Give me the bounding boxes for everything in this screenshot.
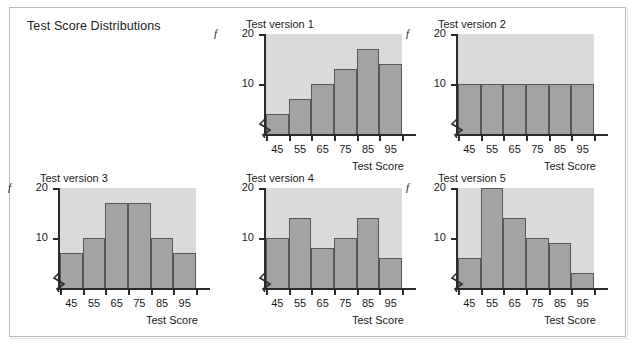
bar-85 — [549, 243, 572, 288]
x-tick-end-5 — [594, 290, 596, 295]
y-tick-20 — [451, 34, 457, 36]
x-tick-45 — [458, 290, 460, 295]
x-tick-95 — [173, 290, 175, 295]
x-axis-title-1: Test Score — [352, 160, 404, 172]
figure-root: Test Score Distributions Test version 11… — [0, 0, 634, 345]
bar-65 — [311, 84, 334, 134]
x-tick-95 — [379, 290, 381, 295]
y-axis-label-2: f — [406, 27, 409, 39]
y-tick-label-10: 10 — [418, 231, 446, 243]
y-tick-label-20: 20 — [226, 27, 254, 39]
y-tick-10 — [53, 238, 59, 240]
histogram-panel-4: Test version 41020455565758595Test Score — [228, 172, 428, 338]
x-axis-line-2 — [456, 134, 608, 136]
axis-break-icon-3 — [51, 266, 67, 296]
figure-title: Test Score Distributions — [27, 19, 161, 33]
panel-title-4: Test version 4 — [246, 172, 314, 184]
bar-95 — [173, 253, 196, 288]
y-tick-20 — [451, 188, 457, 190]
bar-65 — [503, 218, 526, 288]
y-tick-label-10: 10 — [20, 231, 48, 243]
y-tick-label-20: 20 — [20, 181, 48, 193]
y-axis-label-3: f — [8, 181, 11, 193]
x-tick-end-3 — [196, 290, 198, 295]
x-tick-95 — [379, 136, 381, 141]
x-tick-55 — [289, 136, 291, 141]
x-tick-95 — [571, 290, 573, 295]
x-tick-85 — [549, 136, 551, 141]
bar-85 — [549, 84, 572, 134]
x-axis-line-1 — [264, 134, 416, 136]
x-tick-55 — [481, 136, 483, 141]
x-axis-title-5: Test Score — [544, 314, 596, 326]
x-tick-85 — [357, 136, 359, 141]
x-tick-85 — [549, 290, 551, 295]
x-tick-85 — [357, 290, 359, 295]
axis-break-icon-2 — [449, 112, 465, 142]
x-tick-end-4 — [402, 290, 404, 295]
x-tick-65 — [311, 136, 313, 141]
y-tick-10 — [259, 84, 265, 86]
axis-break-icon-1 — [257, 112, 273, 142]
y-tick-10 — [451, 84, 457, 86]
bar-55 — [289, 218, 312, 288]
x-tick-65 — [503, 290, 505, 295]
bar-75 — [334, 69, 357, 134]
x-tick-label-95: 95 — [569, 143, 597, 155]
histogram-panel-2: Test version 21020f455565758595Test Scor… — [420, 18, 620, 184]
y-tick-label-10: 10 — [226, 231, 254, 243]
x-tick-45 — [266, 290, 268, 295]
x-axis-title-2: Test Score — [544, 160, 596, 172]
bar-75 — [526, 238, 549, 288]
x-tick-85 — [151, 290, 153, 295]
y-tick-20 — [259, 188, 265, 190]
x-tick-65 — [105, 290, 107, 295]
x-tick-75 — [334, 290, 336, 295]
bar-55 — [481, 188, 504, 288]
x-tick-label-95: 95 — [569, 297, 597, 309]
panel-title-5: Test version 5 — [438, 172, 506, 184]
y-axis-label-5: f — [406, 181, 409, 193]
y-tick-label-20: 20 — [418, 27, 446, 39]
panel-title-2: Test version 2 — [438, 18, 506, 30]
x-tick-75 — [334, 136, 336, 141]
x-tick-label-95: 95 — [377, 143, 405, 155]
y-tick-20 — [53, 188, 59, 190]
bar-85 — [357, 49, 380, 134]
y-tick-label-20: 20 — [418, 181, 446, 193]
x-axis-title-3: Test Score — [146, 314, 198, 326]
bar-85 — [151, 238, 174, 288]
bar-85 — [357, 218, 380, 288]
y-tick-label-10: 10 — [226, 77, 254, 89]
histogram-panel-5: Test version 51020f455565758595Test Scor… — [420, 172, 620, 338]
bar-95 — [571, 84, 594, 134]
x-tick-55 — [83, 290, 85, 295]
x-tick-55 — [481, 290, 483, 295]
x-tick-end-1 — [402, 136, 404, 141]
y-tick-label-10: 10 — [418, 77, 446, 89]
bar-75 — [334, 238, 357, 288]
bar-55 — [481, 84, 504, 134]
x-tick-75 — [526, 290, 528, 295]
x-axis-line-5 — [456, 288, 608, 290]
bar-95 — [571, 273, 594, 288]
axis-break-icon-5 — [449, 266, 465, 296]
x-axis-line-3 — [58, 288, 210, 290]
x-tick-65 — [503, 136, 505, 141]
bar-65 — [503, 84, 526, 134]
bar-55 — [83, 238, 106, 288]
histogram-panel-1: Test version 11020f455565758595Test Scor… — [228, 18, 428, 184]
y-tick-20 — [259, 34, 265, 36]
x-tick-65 — [311, 290, 313, 295]
y-tick-10 — [451, 238, 457, 240]
x-tick-label-95: 95 — [171, 297, 199, 309]
x-tick-label-95: 95 — [377, 297, 405, 309]
bar-95 — [379, 258, 402, 288]
bar-55 — [289, 99, 312, 134]
bar-65 — [105, 203, 128, 288]
x-tick-55 — [289, 290, 291, 295]
x-tick-45 — [60, 290, 62, 295]
x-tick-75 — [526, 136, 528, 141]
axis-break-icon-4 — [257, 266, 273, 296]
histogram-panel-3: Test version 31020f455565758595Test Scor… — [22, 172, 222, 338]
